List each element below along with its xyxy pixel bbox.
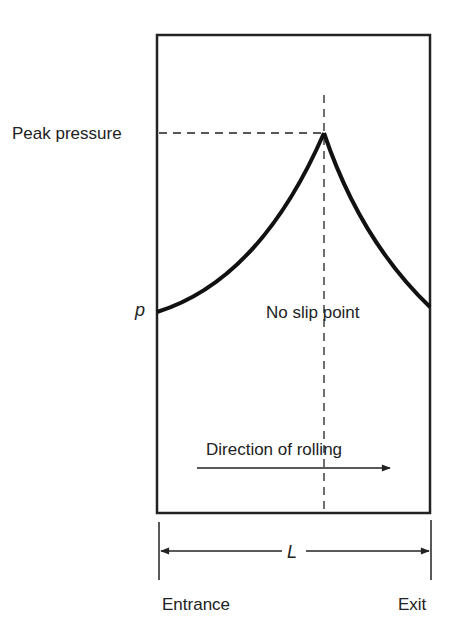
pressure-curve-exit [324, 133, 430, 307]
exit-label: Exit [398, 595, 427, 614]
direction-label: Direction of rolling [206, 440, 342, 459]
rolling-pressure-diagram: Peak pressure p No slip point Direction … [0, 0, 459, 630]
pressure-symbol-label: p [134, 300, 145, 320]
entrance-label: Entrance [162, 595, 230, 614]
pressure-curve-entrance [157, 133, 324, 312]
no-slip-point-label: No slip point [266, 303, 360, 322]
peak-pressure-label: Peak pressure [12, 124, 122, 143]
length-symbol-label: L [287, 542, 297, 562]
